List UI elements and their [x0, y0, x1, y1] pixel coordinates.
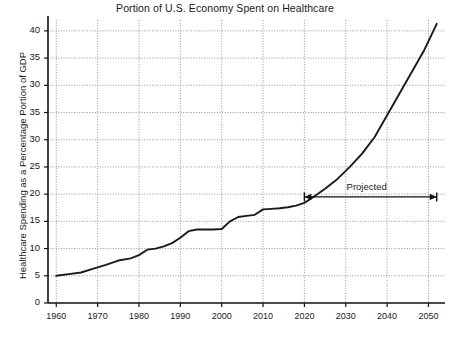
vertical-gridlines	[56, 20, 428, 303]
chart-page: Portion of U.S. Economy Spent on Healthc…	[0, 0, 450, 341]
data-series-line	[56, 24, 436, 276]
plot-area	[0, 0, 450, 341]
projected-annotation-label: Projected	[347, 181, 387, 192]
horizontal-gridlines	[48, 31, 445, 276]
